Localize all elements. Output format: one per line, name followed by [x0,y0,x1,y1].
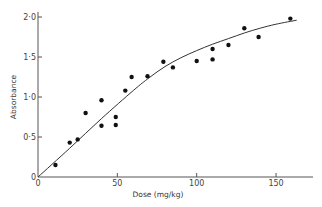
fitted-curve [38,20,297,177]
y-axis: 00·51·01·52·0 Absorbance [9,12,42,182]
data-point [123,88,127,92]
data-point [195,59,199,63]
y-axis-label: Absorbance [9,74,18,119]
x-tick-label: 50 [112,179,122,188]
y-tick-label: 1·5 [23,53,36,62]
data-point [99,124,103,128]
y-tick-label: 2·0 [23,13,36,22]
y-tick-label: 1·0 [23,93,36,102]
data-point [210,47,214,51]
x-axis: 050100150 Dose (mg/kg) [35,173,313,199]
data-point [114,115,118,119]
data-point [83,111,87,115]
data-point [99,98,103,102]
x-tick-label: 0 [35,179,40,188]
data-point [53,163,57,167]
data-point [256,35,260,39]
x-tick-label: 100 [189,179,204,188]
data-point [114,123,118,127]
data-point [242,26,246,30]
data-point [288,16,292,20]
y-tick-label: 0·5 [23,133,36,142]
data-point [145,74,149,78]
data-point [68,140,72,144]
data-point [210,57,214,61]
data-points [53,16,292,167]
data-point [171,65,175,69]
data-point [161,60,165,64]
x-axis-label: Dose (mg/kg) [133,190,184,199]
x-tick-label: 150 [268,179,283,188]
data-point [226,43,230,47]
dose-response-chart: 00·51·01·52·0 Absorbance 050100150 Dose … [0,0,322,207]
data-point [129,75,133,79]
data-point [75,137,79,141]
